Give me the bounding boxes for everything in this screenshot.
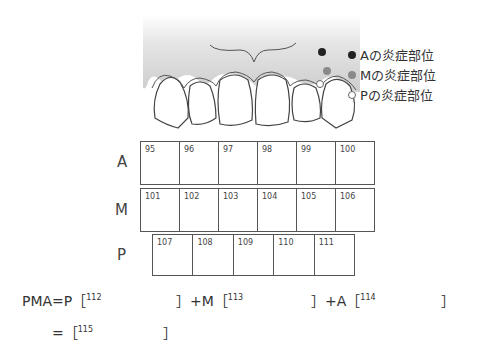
- answer-cell[interactable]: 96: [180, 142, 219, 184]
- answer-cell[interactable]: 110: [274, 235, 314, 275]
- filled-gray-dot-icon: [348, 71, 356, 79]
- answer-cell[interactable]: 109: [234, 235, 274, 275]
- open-dot-icon: [348, 91, 356, 99]
- answer-cell[interactable]: 98: [258, 142, 297, 184]
- legend-item-A: Aの炎症部位: [348, 45, 434, 64]
- formula-segment: ］+M［113: [176, 290, 243, 310]
- dot-A-icon: [318, 48, 326, 56]
- blank-number: 113: [228, 293, 243, 302]
- row-label-A: A: [117, 153, 127, 171]
- answer-cell[interactable]: 108: [193, 235, 233, 275]
- grid-row-M: 101 102 103 104 105 106: [140, 188, 375, 232]
- formula-segment: ］+A［114: [311, 290, 376, 310]
- formula-bracket-end: ］: [163, 322, 177, 342]
- row-label-M: M: [115, 201, 128, 219]
- formula-bracket-end: ］: [441, 290, 455, 310]
- answer-cell[interactable]: 103: [219, 189, 258, 231]
- pma-formula-line-1: PMA=P［112: [22, 290, 102, 310]
- legend-label: Aの炎症部位: [360, 45, 434, 64]
- legend-item-P: Pの炎症部位: [348, 85, 433, 104]
- grid-row-P: 107 108 109 110 111: [152, 234, 355, 276]
- answer-cell[interactable]: 95: [141, 142, 180, 184]
- legend-label: Mの炎症部位: [360, 65, 436, 84]
- answer-cell[interactable]: 99: [297, 142, 336, 184]
- answer-cell[interactable]: 100: [336, 142, 374, 184]
- blank-number: 115: [78, 325, 93, 334]
- blank-number: 114: [360, 293, 375, 302]
- row-label-P: P: [117, 246, 126, 264]
- blank-number: 112: [86, 293, 101, 302]
- answer-cell[interactable]: 105: [297, 189, 336, 231]
- answer-cell[interactable]: 97: [219, 142, 258, 184]
- dot-M-icon: [323, 67, 331, 75]
- answer-cell[interactable]: 106: [336, 189, 374, 231]
- grid-row-A: 95 96 97 98 99 100: [140, 141, 375, 185]
- legend-label: Pの炎症部位: [360, 85, 433, 104]
- dot-P-icon: [317, 81, 324, 88]
- filled-dark-dot-icon: [348, 51, 356, 59]
- answer-cell[interactable]: 107: [153, 235, 193, 275]
- answer-cell[interactable]: 101: [141, 189, 180, 231]
- legend-item-M: Mの炎症部位: [348, 65, 436, 84]
- pma-formula-line-2: =［115: [52, 322, 93, 342]
- answer-cell[interactable]: 111: [315, 235, 354, 275]
- answer-cell[interactable]: 102: [180, 189, 219, 231]
- answer-cell[interactable]: 104: [258, 189, 297, 231]
